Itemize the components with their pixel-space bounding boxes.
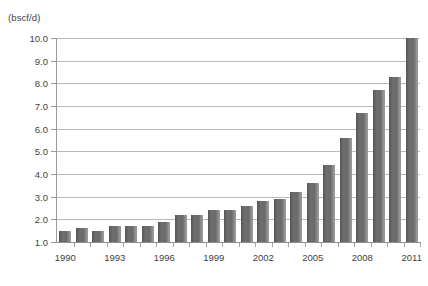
bar [340, 138, 352, 242]
bar [125, 226, 137, 242]
x-axis-tick-label: 1996 [154, 252, 175, 263]
y-axis-tick-label: 7.0 [4, 101, 48, 112]
y-axis-tick-labels: 10.09.08.07.06.05.04.03.02.01.0 [0, 0, 48, 286]
y-axis-tick-label: 4.0 [4, 169, 48, 180]
y-axis-tick-label: 10.0 [4, 33, 48, 44]
x-axis-tick [305, 243, 306, 247]
bar [158, 222, 170, 242]
bar [208, 210, 220, 242]
x-axis-tick [387, 243, 388, 247]
y-axis-tick-label: 5.0 [4, 146, 48, 157]
x-axis-tick [255, 243, 256, 247]
bar [373, 90, 385, 242]
x-axis-tick [288, 243, 289, 247]
x-axis-tick [189, 243, 190, 247]
bar [290, 192, 302, 242]
y-axis-tick-label: 8.0 [4, 78, 48, 89]
bar [406, 38, 418, 242]
x-axis-tick [156, 243, 157, 247]
bar [356, 113, 368, 242]
x-axis-tick-label: 2005 [302, 252, 323, 263]
bar [241, 206, 253, 242]
x-axis-tick [173, 243, 174, 247]
y-axis-tick-label: 1.0 [4, 237, 48, 248]
x-axis-tick [404, 243, 405, 247]
y-axis-tick-label: 6.0 [4, 123, 48, 134]
bar [59, 231, 71, 242]
bar [257, 201, 269, 242]
bar-series [57, 38, 420, 242]
bar [76, 228, 88, 242]
x-axis-tick-label: 2011 [402, 252, 422, 263]
bar [307, 183, 319, 242]
bar [389, 77, 401, 242]
y-axis-tick-label: 3.0 [4, 191, 48, 202]
bar [191, 215, 203, 242]
y-axis-tick-label: 9.0 [4, 55, 48, 66]
x-axis-tick [74, 243, 75, 247]
x-axis-tick-label: 1990 [55, 252, 76, 263]
x-axis-tick-label: 1993 [104, 252, 125, 263]
x-axis-tick [371, 243, 372, 247]
x-axis-tick [107, 243, 108, 247]
y-axis-tick-label: 2.0 [4, 214, 48, 225]
x-axis-tick [123, 243, 124, 247]
x-axis-tick [272, 243, 273, 247]
x-axis-tick-label: 2002 [253, 252, 274, 263]
bar [175, 215, 187, 242]
x-axis-tick [239, 243, 240, 247]
x-axis-tick [338, 243, 339, 247]
x-axis-tick [420, 243, 421, 247]
bar [224, 210, 236, 242]
x-axis-tick [206, 243, 207, 247]
bar [274, 199, 286, 242]
x-axis-tick [354, 243, 355, 247]
x-axis-tick [90, 243, 91, 247]
bar [142, 226, 154, 242]
bar [92, 231, 104, 242]
x-axis-tick [222, 243, 223, 247]
x-axis-tick-label: 2008 [352, 252, 373, 263]
bar [323, 165, 335, 242]
x-axis-tick [321, 243, 322, 247]
bar-chart: (bscf/d) 10.09.08.07.06.05.04.03.02.01.0… [0, 0, 428, 286]
bar [109, 226, 121, 242]
x-axis-tick [140, 243, 141, 247]
x-axis-tick-label: 1999 [203, 252, 224, 263]
